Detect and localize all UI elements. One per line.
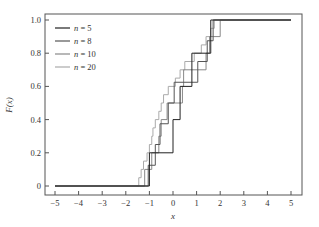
x-tick-label: 4 (265, 198, 270, 208)
x-tick-label: 1 (194, 198, 198, 208)
x-tick-label: 0 (171, 198, 175, 208)
y-tick-label: 0 (37, 181, 41, 191)
y-tick-label: 0.4 (30, 115, 41, 125)
y-tick-label: 0.8 (30, 48, 41, 58)
x-axis-ticks: −5−4−3−2−1012345 (50, 191, 293, 208)
y-tick-label: 0.2 (30, 148, 41, 158)
legend-label: n = 8 (74, 36, 92, 46)
legend-label: n = 20 (74, 62, 96, 72)
y-axis-ticks: 00.20.40.60.81.0 (30, 15, 49, 191)
x-tick-label: 5 (289, 198, 293, 208)
y-tick-label: 0.6 (30, 81, 41, 91)
y-tick-label: 1.0 (30, 15, 41, 25)
legend-label: n = 10 (74, 49, 96, 59)
x-axis-label: x (170, 211, 175, 221)
x-tick-label: −3 (98, 198, 107, 208)
ecdf-chart: −5−4−3−2−1012345 00.20.40.60.81.0 n = 5n… (0, 0, 319, 227)
legend: n = 5n = 8n = 10n = 20 (55, 23, 96, 72)
x-tick-label: 3 (242, 198, 246, 208)
y-axis-label: F(x) (4, 97, 14, 114)
legend-label: n = 5 (74, 23, 92, 33)
x-tick-label: −1 (145, 198, 154, 208)
x-tick-label: 2 (218, 198, 222, 208)
x-tick-label: −2 (121, 198, 130, 208)
x-tick-label: −4 (74, 198, 84, 208)
x-tick-label: −5 (50, 198, 59, 208)
